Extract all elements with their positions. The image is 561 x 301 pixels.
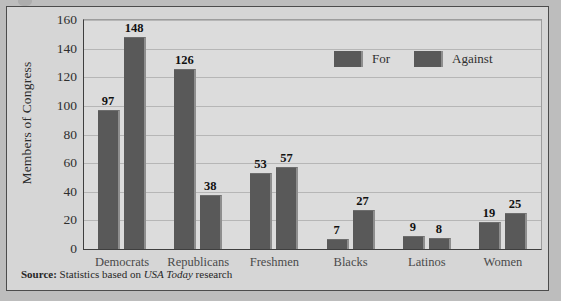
source-text-before: Statistics based on bbox=[60, 268, 141, 280]
bar-value-label: 8 bbox=[436, 222, 442, 237]
y-axis-tick-label: 0 bbox=[70, 241, 77, 257]
y-axis-tick-label: 60 bbox=[64, 155, 78, 171]
bar-republicans-against: 38 bbox=[200, 195, 222, 249]
bar-value-label: 27 bbox=[356, 194, 369, 209]
source-publication: USA Today bbox=[144, 268, 193, 280]
bar-value-label: 38 bbox=[204, 179, 217, 194]
y-axis-tick-label: 140 bbox=[57, 40, 77, 56]
legend-swatch-for bbox=[334, 51, 363, 67]
bar-women-for: 19 bbox=[479, 222, 501, 249]
figure-frame: Members of Congress 16014012010080604020… bbox=[6, 6, 549, 291]
bar-value-label: 25 bbox=[509, 197, 522, 212]
x-axis-category-label: Blacks bbox=[334, 255, 368, 270]
source-label: Source: bbox=[21, 268, 57, 280]
bar-value-label: 53 bbox=[254, 157, 267, 172]
bar-democrats-for: 97 bbox=[98, 110, 120, 249]
bar-freshmen-against: 57 bbox=[276, 167, 298, 249]
bar-group: 97148Democrats bbox=[98, 20, 146, 249]
y-axis-tick-label: 120 bbox=[57, 69, 77, 85]
legend-item-for: For bbox=[334, 51, 390, 67]
plot-wrapper: Members of Congress 16014012010080604020… bbox=[7, 7, 550, 255]
legend-item-against: Against bbox=[414, 51, 492, 67]
y-axis-title: Members of Congress bbox=[19, 33, 35, 213]
bar-blacks-for: 7 bbox=[327, 239, 349, 249]
source-text-after: research bbox=[196, 268, 233, 280]
bar-blacks-against: 27 bbox=[353, 210, 375, 249]
legend-label-against: Against bbox=[452, 51, 492, 67]
bar-value-label: 7 bbox=[333, 223, 339, 238]
bar-freshmen-for: 53 bbox=[250, 173, 272, 249]
bar-democrats-against: 148 bbox=[124, 37, 146, 249]
source-note: Source: Statistics based on USA Today re… bbox=[21, 268, 232, 280]
bar-value-label: 148 bbox=[125, 21, 144, 36]
x-axis-category-label: Freshmen bbox=[250, 255, 299, 270]
bar-republicans-for: 126 bbox=[174, 69, 196, 249]
bar-latinos-against: 8 bbox=[429, 238, 451, 249]
y-axis-tick-label: 40 bbox=[64, 183, 78, 199]
gridline: 0 bbox=[84, 249, 541, 250]
bar-group: 5357Freshmen bbox=[250, 20, 298, 249]
y-axis-tick-label: 20 bbox=[64, 212, 78, 228]
bar-latinos-for: 9 bbox=[403, 236, 425, 249]
bar-value-label: 97 bbox=[102, 94, 115, 109]
bar-group: 12638Republicans bbox=[174, 20, 222, 249]
legend-label-for: For bbox=[372, 51, 390, 67]
bar-value-label: 9 bbox=[410, 220, 416, 235]
bar-value-label: 19 bbox=[483, 206, 496, 221]
legend-swatch-against bbox=[414, 51, 443, 67]
y-axis-tick-label: 100 bbox=[57, 98, 77, 114]
y-axis-tick-label: 160 bbox=[57, 12, 77, 28]
x-axis-category-label: Latinos bbox=[408, 255, 446, 270]
bar-value-label: 126 bbox=[175, 53, 194, 68]
y-axis-tick-label: 80 bbox=[64, 126, 78, 142]
x-axis-category-label: Women bbox=[484, 255, 523, 270]
chart-legend: For Against bbox=[334, 51, 493, 67]
bar-value-label: 57 bbox=[280, 151, 293, 166]
bar-women-against: 25 bbox=[505, 213, 527, 249]
chart-screenshot: Members of Congress 16014012010080604020… bbox=[0, 0, 561, 301]
